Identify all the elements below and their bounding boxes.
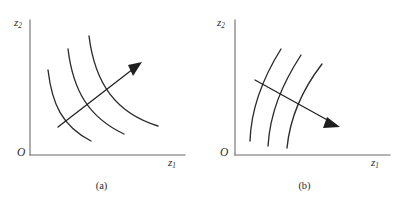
- x-axis-label-a-sub: 1: [172, 162, 176, 170]
- origin-label-b: O: [220, 147, 228, 159]
- caption-b: (b): [203, 180, 406, 191]
- direction-arrow-shaft-b: [255, 80, 331, 122]
- direction-arrow-shaft-a: [58, 69, 133, 127]
- origin-label-a: O: [17, 147, 25, 159]
- panel-b-plot: [203, 0, 406, 203]
- level-curve-b-3: [287, 64, 322, 148]
- level-curve-a-3: [89, 36, 158, 126]
- level-curve-b-2: [268, 55, 301, 146]
- y-axis-label-a: z2: [14, 17, 22, 30]
- level-curve-b-1: [250, 49, 281, 141]
- direction-arrow-head-a: [128, 62, 142, 76]
- y-axis-label-b-sub: 2: [221, 22, 225, 30]
- panel-a-plot: [0, 0, 203, 203]
- panel-a: z2 z1 O (a): [0, 0, 203, 203]
- x-axis-label-b-sub: 1: [375, 162, 379, 170]
- x-axis-label-b: z1: [371, 157, 379, 170]
- y-axis-label-b: z2: [217, 17, 225, 30]
- level-curve-a-2: [68, 49, 124, 134]
- x-axis-label-a: z1: [168, 157, 176, 170]
- figure-container: z2 z1 O (a) z2 z1 O (b): [0, 0, 406, 203]
- level-curve-a-1: [48, 70, 91, 141]
- caption-a: (a): [0, 180, 203, 191]
- panel-b: z2 z1 O (b): [203, 0, 406, 203]
- y-axis-label-a-sub: 2: [18, 22, 22, 30]
